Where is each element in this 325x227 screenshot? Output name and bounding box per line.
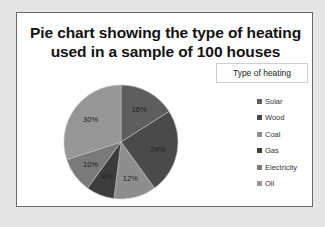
legend-item-wood: Wood — [257, 110, 317, 127]
legend-title: Type of heating — [216, 63, 308, 83]
chart-frame: Pie chart showing the type of heating us… — [16, 12, 313, 207]
legend-item-oil: Oil — [257, 176, 317, 193]
legend-swatch — [257, 148, 262, 153]
legend-swatch — [257, 165, 262, 170]
slice-label-oil: 30% — [83, 115, 98, 124]
slice-label-gas: 8% — [102, 172, 113, 181]
chart-title-line-1: Pie chart showing the type of heating — [17, 23, 314, 42]
chart-title: Pie chart showing the type of heating us… — [17, 23, 314, 61]
legend-swatch — [257, 115, 262, 120]
pie-chart: 16%24%12%8%10%30% — [61, 82, 181, 202]
legend-swatch — [257, 181, 262, 186]
slice-label-electricity: 10% — [83, 160, 98, 169]
legend-label: Gas — [265, 146, 279, 155]
legend-item-solar: Solar — [257, 93, 317, 110]
legend-item-electricity: Electricity — [257, 159, 317, 176]
legend-item-gas: Gas — [257, 143, 317, 160]
pie-svg: 16%24%12%8%10%30% — [61, 82, 181, 202]
legend-item-coal: Coal — [257, 126, 317, 143]
slice-label-wood: 24% — [150, 145, 165, 154]
slice-label-coal: 12% — [123, 174, 138, 183]
legend-label: Wood — [265, 113, 284, 122]
legend-label: Electricity — [265, 163, 297, 172]
legend-label: Oil — [265, 179, 274, 188]
legend: SolarWoodCoalGasElectricityOil — [257, 93, 317, 192]
legend-label: Solar — [265, 97, 283, 106]
legend-swatch — [257, 132, 262, 137]
legend-label: Coal — [265, 130, 280, 139]
chart-title-line-2: used in a sample of 100 houses — [17, 42, 314, 61]
slice-label-solar: 16% — [132, 105, 147, 114]
legend-swatch — [257, 99, 262, 104]
